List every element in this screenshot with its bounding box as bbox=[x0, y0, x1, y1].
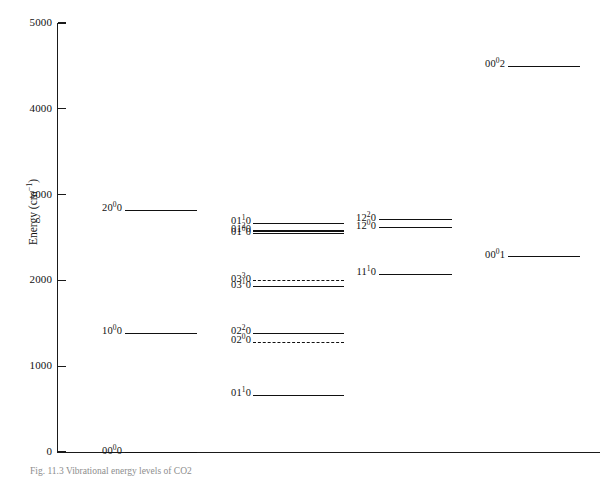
energy-level-label-base: 03 bbox=[231, 273, 242, 284]
energy-level-label-tail: 0 bbox=[117, 325, 122, 336]
energy-level-line bbox=[125, 452, 197, 453]
y-tick-label: 4000 bbox=[8, 103, 52, 114]
energy-level-line bbox=[253, 233, 344, 234]
energy-level-line bbox=[125, 333, 197, 334]
y-axis bbox=[57, 23, 58, 453]
energy-level-label: 0220 bbox=[217, 325, 251, 336]
energy-level-label: 0110 bbox=[217, 215, 251, 226]
y-tick-label-wrap: 1000 bbox=[0, 360, 52, 371]
y-tick-mark bbox=[58, 108, 66, 109]
energy-level-label-tail: 0 bbox=[371, 212, 376, 223]
energy-level-label: 1220 bbox=[342, 212, 376, 223]
energy-level-label-base: 11 bbox=[356, 266, 366, 277]
y-tick-mark bbox=[58, 366, 66, 367]
y-axis-title-tail: ) bbox=[27, 179, 39, 183]
energy-level-label: 0002 bbox=[471, 58, 505, 69]
energy-level-line bbox=[379, 227, 452, 228]
energy-level-line bbox=[508, 256, 580, 257]
energy-level-label-tail: 1 bbox=[500, 249, 505, 260]
energy-level-label-base: 20 bbox=[102, 202, 113, 213]
energy-level-line bbox=[253, 280, 344, 281]
energy-level-line bbox=[253, 342, 344, 343]
y-tick-mark bbox=[58, 280, 66, 281]
figure-caption: Fig. 11.3 Vibrational energy levels of C… bbox=[30, 466, 570, 477]
energy-level-label-base: 02 bbox=[231, 325, 242, 336]
y-tick-mark bbox=[58, 194, 66, 195]
energy-level-label-base: 10 bbox=[102, 325, 113, 336]
energy-level-label-tail: 0 bbox=[246, 325, 251, 336]
energy-level-line bbox=[379, 274, 452, 275]
y-tick-label-wrap: 2000 bbox=[0, 274, 52, 285]
energy-level-label-base: 01 bbox=[231, 387, 242, 398]
energy-level-diagram: Energy (cm−1) 500040003000200010000 0000… bbox=[0, 0, 601, 478]
energy-level-label-tail: 0 bbox=[117, 202, 122, 213]
y-tick-label: 0 bbox=[8, 446, 52, 457]
energy-level-label: 0110 bbox=[217, 387, 251, 398]
energy-level-label-tail: 0 bbox=[246, 387, 251, 398]
energy-level-line bbox=[253, 286, 344, 287]
energy-level-label-tail: 0 bbox=[246, 273, 251, 284]
y-tick-mark bbox=[58, 22, 66, 23]
energy-level-line bbox=[253, 333, 344, 334]
energy-level-label: 0330 bbox=[217, 273, 251, 284]
energy-level-label-base: 00 bbox=[102, 445, 113, 456]
energy-level-label: 1000 bbox=[88, 325, 122, 336]
energy-level-line bbox=[253, 230, 344, 232]
y-tick-label: 2000 bbox=[8, 274, 52, 285]
energy-level-label: 0000 bbox=[88, 445, 122, 456]
energy-level-line bbox=[379, 219, 452, 220]
energy-level-label-base: 12 bbox=[356, 212, 367, 223]
y-tick-mark bbox=[58, 451, 66, 452]
y-tick-label: 5000 bbox=[8, 17, 52, 28]
energy-level-line bbox=[508, 66, 580, 67]
y-tick-label: 1000 bbox=[8, 360, 52, 371]
energy-level-label: 1110 bbox=[342, 266, 376, 277]
y-tick-label: 3000 bbox=[8, 189, 52, 200]
energy-level-label-base: 01 bbox=[231, 215, 242, 226]
y-tick-label-wrap: 0 bbox=[0, 446, 52, 457]
energy-level-label-tail: 0 bbox=[246, 215, 251, 226]
energy-level-line bbox=[125, 210, 197, 211]
energy-level-label: 0001 bbox=[471, 249, 505, 260]
y-tick-label-wrap: 4000 bbox=[0, 103, 52, 114]
energy-level-label-base: 00 bbox=[485, 58, 496, 69]
energy-level-label-tail: 0 bbox=[371, 266, 376, 277]
y-axis-title: Energy (cm−1) bbox=[27, 132, 39, 292]
y-tick-label-wrap: 5000 bbox=[0, 17, 52, 28]
energy-level-line bbox=[253, 223, 344, 224]
energy-level-label: 2000 bbox=[88, 202, 122, 213]
energy-level-label-tail: 2 bbox=[500, 58, 505, 69]
energy-level-label-base: 00 bbox=[485, 249, 496, 260]
energy-level-label-tail: 0 bbox=[117, 445, 122, 456]
y-tick-label-wrap: 3000 bbox=[0, 189, 52, 200]
energy-level-line bbox=[253, 395, 344, 396]
